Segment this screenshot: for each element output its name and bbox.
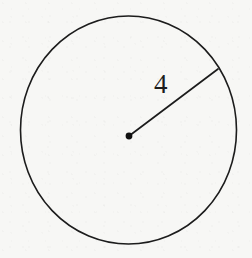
radius-line xyxy=(129,69,218,136)
circle-diagram-svg xyxy=(0,0,252,258)
geometry-figure: 4 xyxy=(0,0,252,258)
circle-outline xyxy=(21,16,237,244)
radius-length-label: 4 xyxy=(154,71,168,98)
center-dot xyxy=(126,133,133,140)
